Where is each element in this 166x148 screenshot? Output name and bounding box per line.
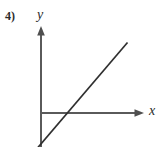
x-axis-arrowhead-icon [135, 109, 145, 116]
coordinate-plane-graph [0, 0, 166, 147]
plotted-line [38, 43, 128, 148]
y-axis-arrowhead-icon [37, 26, 45, 36]
plotted-line-group [38, 43, 128, 148]
figure-container: 4) y x [0, 0, 166, 147]
